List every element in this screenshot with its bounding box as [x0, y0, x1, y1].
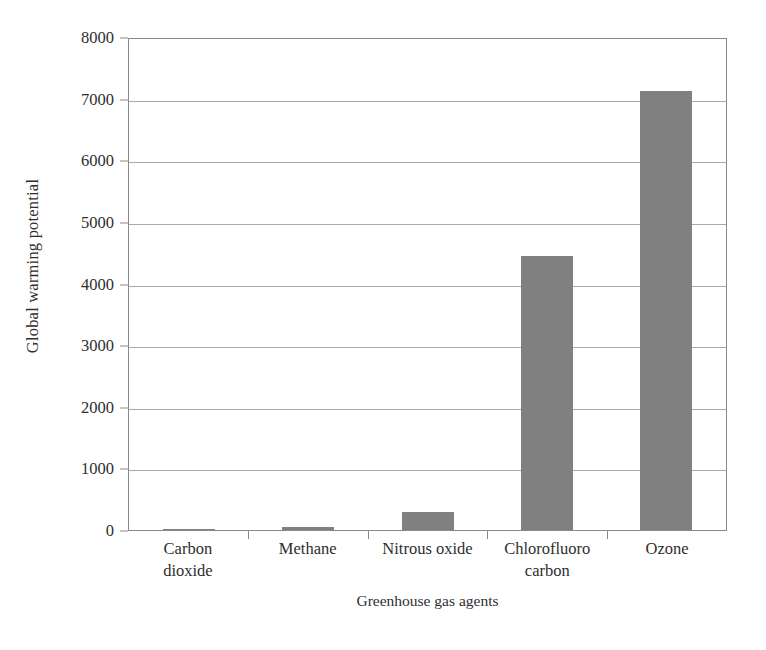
y-tick-mark [120, 407, 128, 408]
bar-slot [248, 39, 367, 530]
bar [163, 529, 215, 530]
y-tick-label: 4000 [81, 275, 114, 295]
x-category-label: Nitrous oxide [368, 538, 488, 582]
y-tick-mark [120, 99, 128, 100]
bar-chart-figure: Global warming potential 010002000300040… [0, 0, 766, 650]
bar [640, 91, 692, 530]
x-category-label: Methane [248, 538, 368, 582]
x-category-label-line2: carbon [487, 560, 607, 582]
y-tick-mark [120, 222, 128, 223]
bar [282, 527, 334, 530]
y-tick-mark [120, 346, 128, 347]
y-axis-ticks: 010002000300040005000600070008000 [0, 0, 128, 650]
x-category-label-line2: dioxide [128, 560, 248, 582]
y-tick-label: 5000 [81, 213, 114, 233]
y-tick-mark [120, 531, 128, 532]
x-category-label: Carbondioxide [128, 538, 248, 582]
y-tick-mark [120, 161, 128, 162]
x-category-label-line1: Chlorofluoro [504, 539, 590, 558]
x-category-label-line1: Ozone [646, 539, 689, 558]
bar-slot [607, 39, 726, 530]
x-axis-title: Greenhouse gas agents [128, 592, 727, 610]
y-tick-mark [120, 38, 128, 39]
y-tick-label: 6000 [81, 151, 114, 171]
bar-slot [487, 39, 606, 530]
x-category-label-line1: Carbon [164, 539, 213, 558]
bar-series [129, 39, 726, 530]
y-tick-label: 0 [106, 521, 114, 541]
x-axis-title-text: Greenhouse gas agents [356, 592, 498, 609]
bar-slot [129, 39, 248, 530]
y-tick-mark [120, 284, 128, 285]
plot-area [128, 38, 727, 531]
y-tick-label: 7000 [81, 90, 114, 110]
bar [521, 256, 573, 530]
bar-slot [368, 39, 487, 530]
x-axis-category-labels: CarbondioxideMethaneNitrous oxideChlorof… [128, 538, 727, 582]
x-category-label-line1: Nitrous oxide [382, 539, 472, 558]
bar [402, 512, 454, 530]
y-tick-label: 8000 [81, 28, 114, 48]
x-category-label: Ozone [607, 538, 727, 582]
y-tick-label: 1000 [81, 459, 114, 479]
y-tick-label: 3000 [81, 336, 114, 356]
y-tick-mark [120, 469, 128, 470]
x-category-label-line1: Methane [279, 539, 337, 558]
x-category-label: Chlorofluorocarbon [487, 538, 607, 582]
y-tick-label: 2000 [81, 398, 114, 418]
